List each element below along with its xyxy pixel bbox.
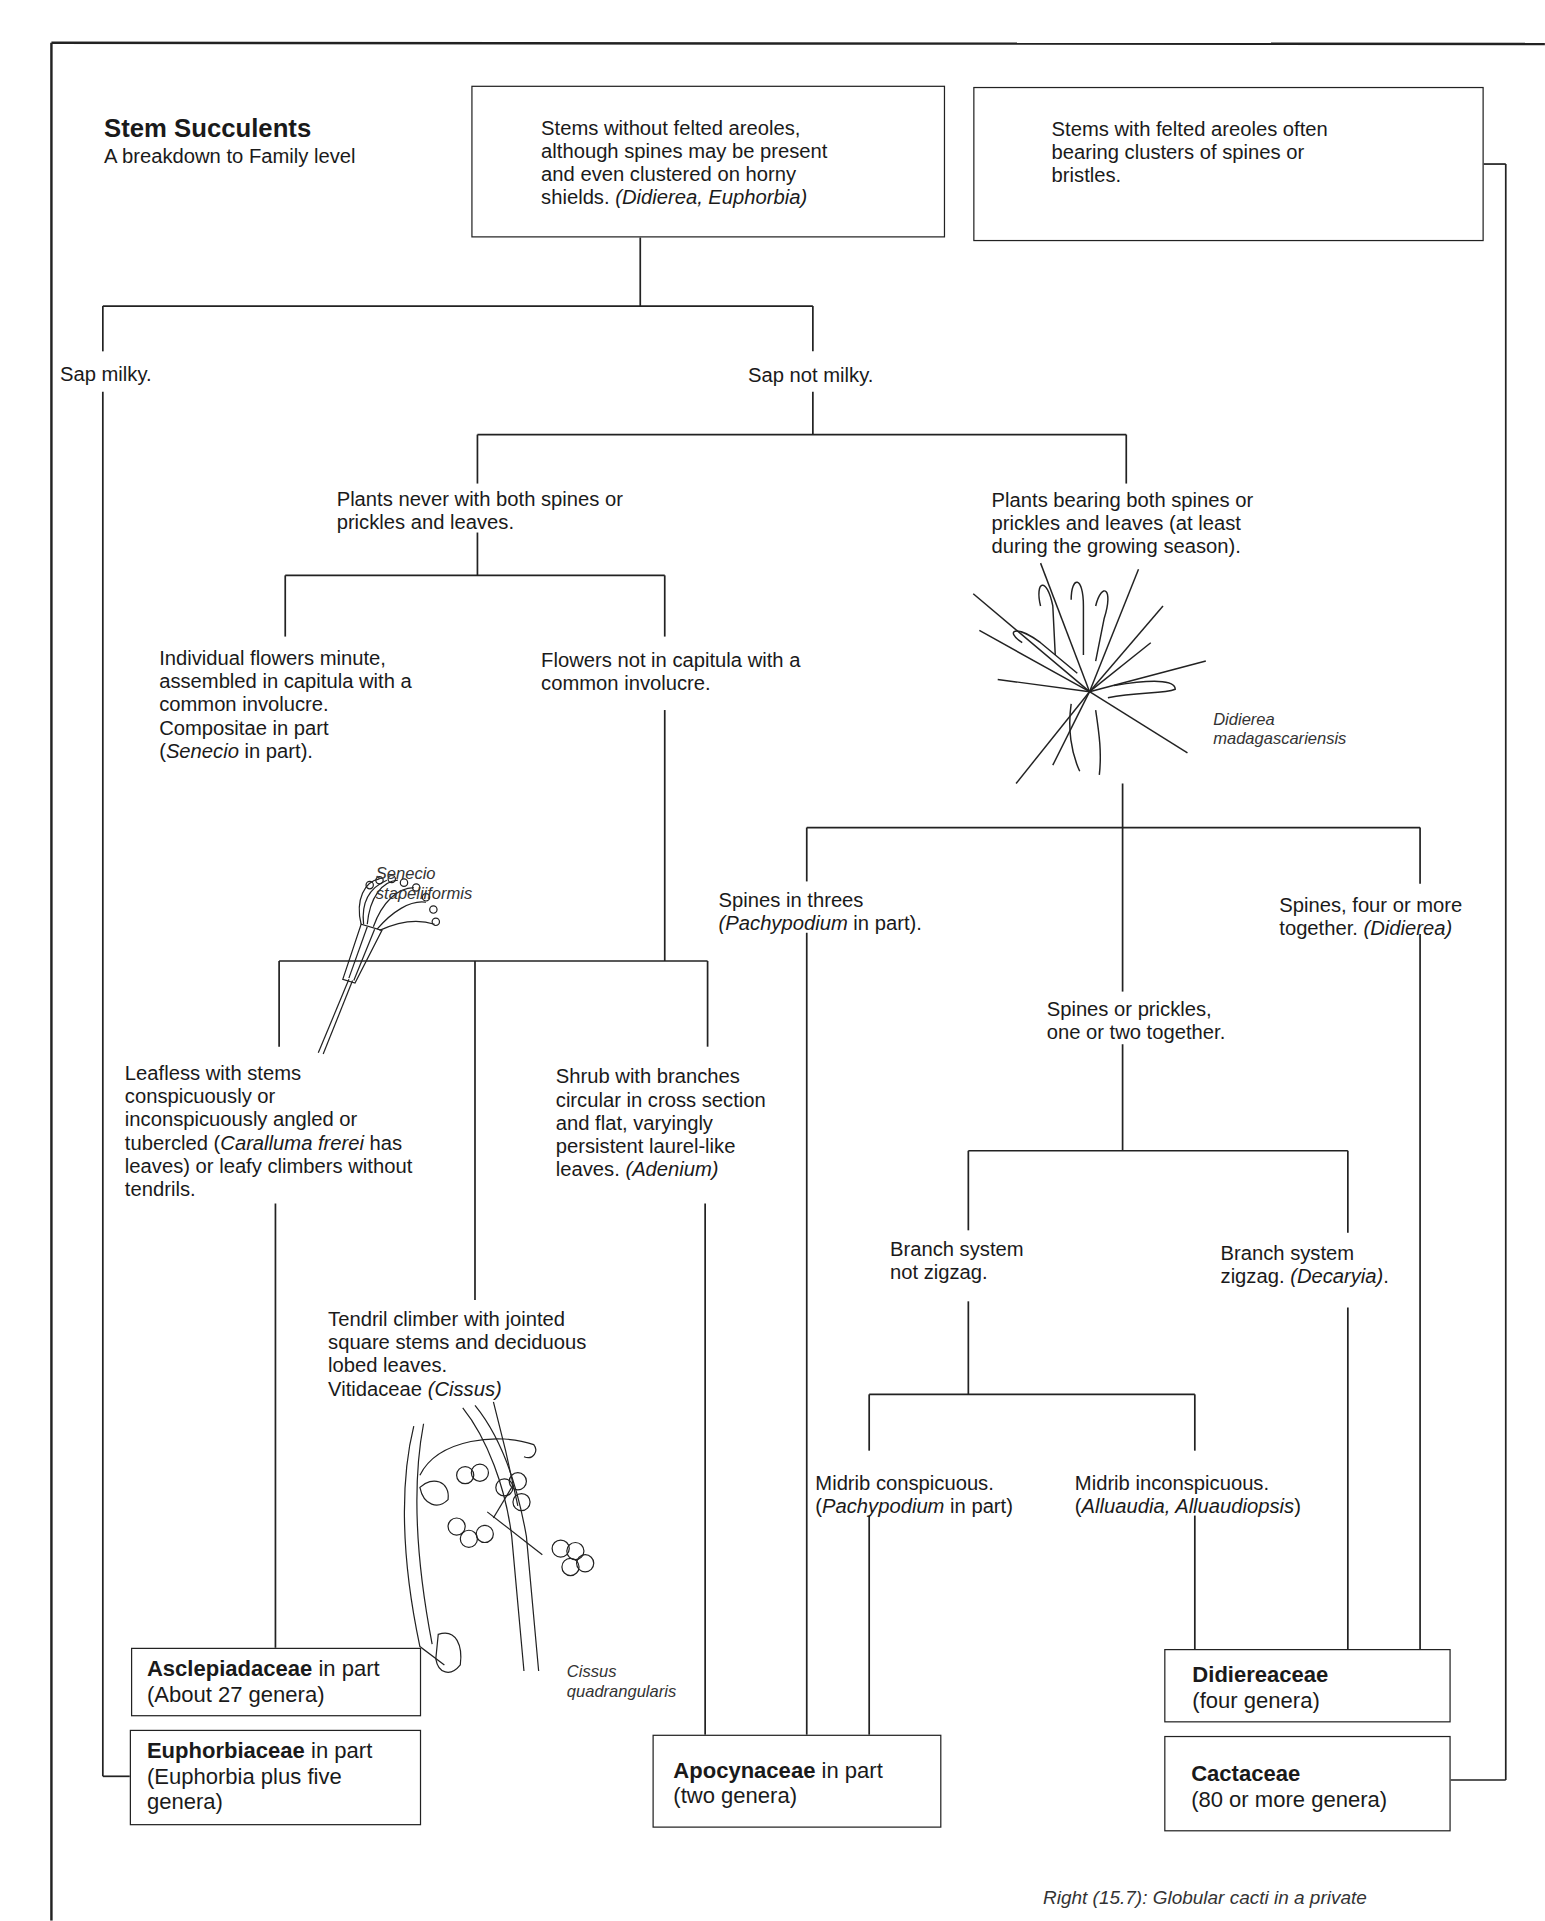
senecio-flower-illustration [306, 875, 465, 1071]
caption-senecio: Senecio stapeliiformis [376, 864, 472, 903]
node-without-areoles: Stems without felted areoles, although s… [541, 116, 827, 209]
text-line: although spines may be present [541, 140, 827, 163]
family-cactaceae: Cactaceae (80 or more genera) [1164, 1736, 1450, 1831]
family-euphorbiaceae: Euphorbiaceae in part (Euphorbia plus fi… [130, 1730, 421, 1825]
page-title: Stem Succulents [104, 114, 311, 143]
caption-didierea: Didierea madagascariensis [1213, 710, 1346, 749]
figure-caption: Right (15.7): Globular cacti in a privat… [1043, 1886, 1367, 1908]
node-midrib-conspicuous: Midrib conspicuous. (Pachypodium in part… [815, 1471, 1013, 1518]
node-sap-milky: Sap milky. [60, 362, 152, 385]
family-asclepiadaceae: Asclepiadaceae in part (About 27 genera) [131, 1648, 421, 1717]
diagram-stage: Stem Succulents A breakdown to Family le… [0, 0, 1545, 1921]
node-not-zigzag: Branch system not zigzag. [890, 1238, 1024, 1285]
family-apocynaceae: Apocynaceae in part (two genera) [652, 1735, 941, 1828]
node-with-areoles: Stems with felted areoles often bearing … [1052, 118, 1328, 188]
node-never-both: Plants never with both spines or prickle… [337, 487, 623, 534]
node-midrib-inconspicuous: Midrib inconspicuous. (Alluaudia, Alluau… [1075, 1471, 1301, 1518]
node-zigzag: Branch system zigzag. (Decaryia). [1221, 1241, 1389, 1288]
node-spines-threes: Spines in threes (Pachypodium in part). [719, 889, 922, 936]
page-subtitle: A breakdown to Family level [104, 144, 355, 167]
text-line: and even clustered on horny [541, 163, 827, 186]
node-capitula: Individual flowers minute, assembled in … [159, 646, 412, 762]
node-spines-four: Spines, four or more together. (Didierea… [1279, 894, 1462, 941]
node-spines-one-two: Spines or prickles, one or two together. [1047, 998, 1226, 1045]
connector-lines [0, 0, 1545, 1921]
node-shrub: Shrub with branches circular in cross se… [556, 1065, 766, 1181]
cissus-vine-illustration [389, 1402, 609, 1696]
node-tendril: Tendril climber with jointed square stem… [328, 1307, 586, 1400]
caption-cissus: Cissus quadrangularis [567, 1662, 676, 1701]
text-line: shields. (Didierea, Euphorbia) [541, 186, 827, 209]
text-line: Stems without felted areoles, [541, 116, 827, 139]
family-didiereaceae: Didiereaceae (four genera) [1164, 1649, 1450, 1722]
node-not-capitula: Flowers not in capitula with a common in… [541, 649, 800, 696]
text-line: Stems with felted areoles often [1052, 118, 1328, 141]
node-sap-not-milky: Sap not milky. [748, 364, 873, 387]
didierea-spiny-plant-illustration [967, 557, 1212, 790]
text-line: bearing clusters of spines or [1052, 141, 1328, 164]
text-line: bristles. [1052, 164, 1328, 187]
node-leafless: Leafless with stems conspicuously or inc… [125, 1061, 412, 1201]
node-bearing-both: Plants bearing both spines or prickles a… [992, 488, 1254, 558]
